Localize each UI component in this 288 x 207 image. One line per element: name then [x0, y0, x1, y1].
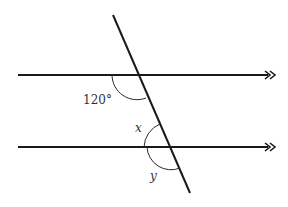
angle-label-x: x [135, 121, 142, 135]
angle-label-y: y [149, 169, 157, 183]
transversal-line [113, 15, 190, 193]
angle-arc-x [144, 124, 160, 147]
angle-diagram: 120° x y [0, 0, 288, 207]
angle-label-120: 120° [83, 93, 112, 107]
